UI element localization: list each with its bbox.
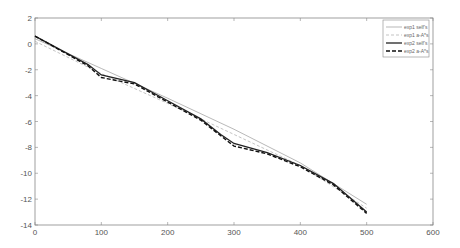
legend-entry: exp1 a-A*s	[404, 32, 429, 38]
x-tick-label: 400	[294, 228, 308, 237]
y-tick-label: 2	[28, 14, 33, 23]
y-tick-label: -12	[20, 195, 32, 204]
line-chart: 010020030040050060020-2-4-6-8-10-12-14 e…	[0, 0, 460, 248]
y-tick-label: -14	[20, 221, 32, 230]
y-tick-label: -10	[20, 169, 32, 178]
y-tick-label: 0	[28, 40, 33, 49]
legend-entry: exp1 self's	[404, 24, 428, 30]
legend-entry: exp2 a-A*s	[404, 48, 429, 54]
plot-area	[35, 18, 433, 225]
legend-entry: exp2 self's	[404, 40, 428, 46]
y-tick-label: -4	[25, 92, 33, 101]
y-tick-label: -2	[25, 66, 33, 75]
y-tick-label: -8	[25, 143, 33, 152]
x-tick-label: 600	[426, 228, 440, 237]
x-tick-label: 300	[227, 228, 241, 237]
x-tick-label: 200	[161, 228, 175, 237]
legend: exp1 self'sexp1 a-A*sexp2 self'sexp2 a-A…	[383, 20, 429, 57]
x-tick-label: 100	[95, 228, 109, 237]
x-tick-label: 500	[360, 228, 374, 237]
y-tick-label: -6	[25, 118, 33, 127]
x-tick-label: 0	[33, 228, 38, 237]
